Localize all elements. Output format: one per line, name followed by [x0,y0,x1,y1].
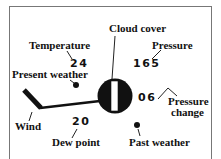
wind-barb-icon [24,90,100,108]
temperature-label: Temperature [29,40,90,51]
past-weather-label: Past weather [129,137,190,148]
present-weather-dot-icon [73,82,79,88]
pressure-change-value: 06 [138,92,156,103]
dew-point-value: 20 [72,116,90,127]
cloud-cover-leader [112,36,115,79]
present-weather-leader [70,80,74,83]
dew-point-label: Dew point [52,137,100,148]
pressure-value: 165 [133,58,160,69]
past-weather-leader [138,129,140,136]
cloud-cover-circle-icon [98,79,133,114]
pressure-label: Pressure [152,40,193,51]
pressure-change-label-line2: change [171,107,204,118]
cloud-cover-label: Cloud cover [109,23,166,34]
past-weather-dot-icon [134,122,140,128]
present-weather-label: Present weather [12,69,88,80]
wind-label: Wind [15,121,41,132]
